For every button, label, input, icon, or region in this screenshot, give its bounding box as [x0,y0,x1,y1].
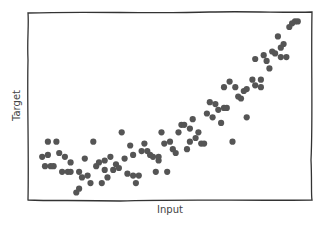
data-point [141,141,147,147]
data-point [204,110,210,116]
data-point [127,142,133,148]
data-point [102,157,108,163]
data-point [62,154,68,160]
data-point [264,58,270,64]
data-point [99,180,105,186]
data-point [261,52,267,58]
data-point [283,54,289,60]
data-point [195,129,201,135]
data-point [184,146,190,152]
data-point [76,186,82,192]
data-point [39,154,45,160]
data-point [187,126,193,132]
data-point [139,148,145,154]
data-point [232,84,238,90]
data-point [244,86,250,92]
data-point [252,56,258,62]
data-point [130,173,136,179]
data-point [224,105,230,111]
data-point [278,54,284,60]
data-point [190,116,196,122]
data-point [249,77,255,83]
data-point [207,99,213,105]
data-point [104,174,110,180]
data-point [266,65,272,71]
data-point [56,150,62,156]
data-point [212,101,218,107]
data-point [59,169,65,175]
data-point [153,169,159,175]
data-point [218,120,224,126]
data-point [124,171,130,177]
data-point [82,156,88,162]
data-point [122,156,128,162]
data-point [258,77,264,83]
data-point [238,95,244,101]
data-point [275,33,281,39]
data-point [161,141,167,147]
y-axis-label: Target [11,76,22,136]
data-point [258,84,264,90]
data-point [68,169,74,175]
data-point [150,154,156,160]
data-point [187,139,193,145]
data-point [227,79,233,85]
data-point [210,114,216,120]
data-point [281,41,287,47]
x-axis-label: Input [0,204,327,215]
data-point [221,84,227,90]
data-point [107,154,113,160]
data-points [39,18,301,195]
data-point [116,165,122,171]
data-point [42,163,48,169]
data-point [68,159,74,165]
data-point [110,167,116,173]
data-point [156,154,162,160]
data-point [164,169,170,175]
data-point [158,129,164,135]
data-point [252,82,258,88]
scatter-chart [0,0,327,225]
data-point [102,167,108,173]
data-point [175,129,181,135]
data-point [79,174,85,180]
data-point [119,129,125,135]
data-point [87,180,93,186]
data-point [193,135,199,141]
data-point [229,139,235,145]
data-point [85,173,91,179]
data-point [51,163,57,169]
data-point [96,159,102,165]
data-point [295,18,301,24]
data-point [90,139,96,145]
data-point [136,173,142,179]
data-point [215,107,221,113]
data-point [76,169,82,175]
data-point [133,180,139,186]
data-point [272,50,278,56]
data-point [130,152,136,158]
data-point [201,141,207,147]
data-point [181,122,187,128]
data-point [45,152,51,158]
data-point [244,114,250,120]
data-point [167,139,173,145]
data-point [53,139,59,145]
data-point [173,150,179,156]
data-point [45,139,51,145]
